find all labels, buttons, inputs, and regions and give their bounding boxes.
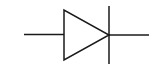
diode-symbol xyxy=(0,0,152,69)
diode-triangle xyxy=(64,10,109,60)
